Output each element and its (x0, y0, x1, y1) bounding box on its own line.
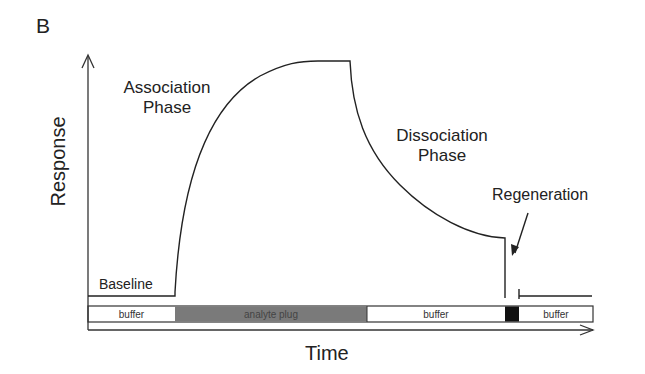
bar-segment-buffer-3: buffer (519, 307, 593, 322)
regeneration-label: Regeneration (492, 186, 588, 204)
association-phase-label: Association Phase (112, 78, 222, 117)
dissociation-line1: Dissociation (387, 126, 497, 146)
panel-label: B (36, 14, 50, 38)
regeneration-segment (505, 307, 519, 322)
dissociation-line2: Phase (387, 146, 497, 166)
bar-segment-analyte-plug: analyte plug (175, 307, 367, 322)
dissociation-phase-label: Dissociation Phase (387, 126, 497, 165)
x-axis-label: Time (305, 342, 349, 365)
bar-segment-buffer-2: buffer (367, 307, 505, 322)
bar-segment-buffer-1: buffer (88, 307, 175, 322)
y-axis-label: Response (47, 112, 70, 212)
baseline-label: Baseline (99, 276, 153, 292)
association-line2: Phase (112, 98, 222, 118)
association-line1: Association (112, 78, 222, 98)
